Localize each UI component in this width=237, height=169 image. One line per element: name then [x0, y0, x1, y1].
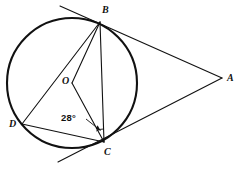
radius-OC [72, 83, 104, 142]
point-label-b: B [102, 5, 109, 15]
point-label-a: A [227, 73, 234, 83]
angle-label-28-degrees: 28° [61, 113, 76, 123]
point-label-d: D [9, 119, 16, 129]
center-label-o: O [62, 76, 69, 86]
geometry-canvas [0, 0, 237, 169]
chord-DC [22, 124, 104, 142]
point-label-c: C [104, 147, 111, 157]
geometry-diagram: B A C D O 28° [0, 0, 237, 169]
tangent-line-through-C [58, 78, 222, 162]
chord-BD [22, 22, 100, 124]
chord-BC [100, 22, 104, 142]
segments-group [22, 6, 222, 162]
